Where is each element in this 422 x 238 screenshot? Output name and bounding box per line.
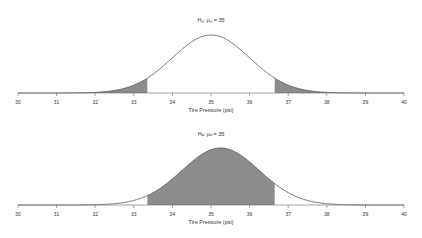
x-axis-ticks: 3031323334353637383940 xyxy=(15,205,407,217)
x-axis-ticks: 3031323334353637383940 xyxy=(15,93,407,105)
density-curve xyxy=(18,35,404,93)
tick-label: 37 xyxy=(285,99,291,105)
shaded-region xyxy=(147,148,274,205)
tick-label: 30 xyxy=(15,211,21,217)
shaded-area xyxy=(18,78,147,93)
tick-label: 36 xyxy=(247,211,253,217)
tick-label: 39 xyxy=(363,99,369,105)
tick-label: 31 xyxy=(54,211,60,217)
shaded-region xyxy=(18,78,404,93)
tick-label: 38 xyxy=(324,99,330,105)
tick-label: 33 xyxy=(131,99,137,105)
hypothesis-test-plot: H₀: μ₀ = 35 3031323334353637383940 Tire … xyxy=(0,0,422,238)
null-hypothesis-panel: H₀: μ₀ = 35 3031323334353637383940 Tire … xyxy=(15,17,407,113)
shaded-area xyxy=(275,78,404,93)
tick-label: 32 xyxy=(92,99,98,105)
x-axis-label: Tire Pressure (psi) xyxy=(188,107,233,113)
tick-label: 35 xyxy=(208,99,214,105)
alternative-hypothesis-panel: Hₐ: μₐ = 35 3031323334353637383940 Tire … xyxy=(15,131,407,225)
panel-title: H₀: μ₀ = 35 xyxy=(197,17,224,23)
tick-label: 35 xyxy=(208,211,214,217)
tick-label: 33 xyxy=(131,211,137,217)
tick-label: 34 xyxy=(170,211,176,217)
chart-figure: H₀: μ₀ = 35 3031323334353637383940 Tire … xyxy=(0,0,422,238)
panel-title: Hₐ: μₐ = 35 xyxy=(198,131,225,137)
x-axis-label: Tire Pressure (psi) xyxy=(188,219,233,225)
tick-label: 40 xyxy=(401,211,407,217)
tick-label: 39 xyxy=(363,211,369,217)
tick-label: 32 xyxy=(92,211,98,217)
tick-label: 38 xyxy=(324,211,330,217)
shaded-area xyxy=(147,148,274,205)
tick-label: 30 xyxy=(15,99,21,105)
tick-label: 40 xyxy=(401,99,407,105)
tick-label: 36 xyxy=(247,99,253,105)
tick-label: 34 xyxy=(170,99,176,105)
tick-label: 37 xyxy=(285,211,291,217)
tick-label: 31 xyxy=(54,99,60,105)
